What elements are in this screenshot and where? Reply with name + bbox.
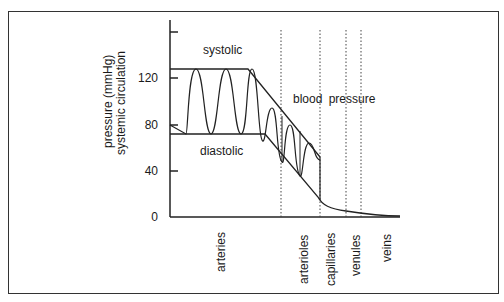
region-veins: veins <box>380 234 394 262</box>
systolic-line <box>170 69 320 157</box>
chart-title: blood pressure <box>293 92 375 106</box>
tick-80: 80 <box>128 118 158 132</box>
region-arteries: arteries <box>214 232 228 272</box>
tick-120: 120 <box>128 71 158 85</box>
pressure-chart <box>0 0 504 302</box>
tick-40: 40 <box>128 164 158 178</box>
diastolic-label: diastolic <box>200 144 243 158</box>
region-arterioles: arterioles <box>297 235 311 284</box>
tick-0: 0 <box>128 210 158 224</box>
region-capillaries: capillaries <box>324 233 338 286</box>
y-label-pressure: pressure (mmHg) <box>101 55 115 148</box>
region-venules: venules <box>349 235 363 276</box>
y-label-systemic: systemic circulation <box>114 51 128 155</box>
pulse-waveform <box>170 69 320 176</box>
systolic-label: systolic <box>203 43 242 57</box>
